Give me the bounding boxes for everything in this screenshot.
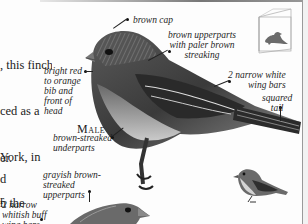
body-line: d (0, 172, 6, 187)
page-top-edge (40, 0, 308, 2)
leader-dot (40, 218, 43, 221)
leader-line (280, 107, 281, 121)
body-line: er. (0, 151, 40, 165)
orange-variant-male-illustration (232, 164, 292, 204)
label-brown-streaked-underparts: brown-streaked underparts (53, 133, 112, 153)
caption-orange-variant-male: Orange Variant Male (228, 205, 300, 224)
leader-line (85, 71, 93, 72)
body-text-paragraph-3: d (0, 172, 6, 187)
field-guide-page: , this finch ced as a York, in n the row… (0, 0, 308, 224)
label-brown-upperparts: brown upperparts with paler brown streak… (168, 30, 236, 60)
label-squared-tail: squared tail (262, 93, 292, 113)
female-finch-illustration (70, 196, 180, 224)
label-wing-bars: 2 narrow white wing bars (228, 70, 286, 90)
label-brown-cap: brown cap (133, 15, 173, 25)
label-red-bib: bright red to orange bib and front of he… (44, 66, 82, 116)
leader-dot (168, 50, 171, 53)
